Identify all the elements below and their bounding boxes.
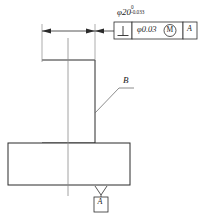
dimension-arrow-outer-right	[95, 29, 104, 34]
dimension-arrow-right	[86, 29, 95, 34]
dimension-arrow-left	[42, 29, 51, 34]
dimension-lower-deviation: -0.033	[131, 10, 144, 15]
datum-label-a: A	[98, 198, 103, 206]
leader-b-group	[95, 88, 134, 113]
datum-triangle-indicator	[95, 186, 107, 195]
dimension-deviations: 0-0.033	[131, 5, 144, 15]
part-outline-base	[8, 143, 130, 185]
dimension-nominal-value: φ20	[117, 7, 131, 17]
part-outline-post	[42, 60, 95, 143]
base-block-profile	[8, 143, 130, 185]
fcf-tolerance-value: φ0.03	[137, 25, 157, 34]
dimension-text: φ200-0.033	[117, 6, 144, 17]
surface-label-b: B	[123, 76, 129, 85]
dimension-line-group	[42, 29, 114, 34]
fcf-datum-letter: A	[187, 25, 192, 33]
post-profile	[42, 60, 95, 143]
leader-line-b	[95, 88, 119, 113]
engineering-drawing: φ200-0.033 φ0.03 M A B A	[0, 0, 198, 217]
fcf-mmc-modifier-letter: M	[167, 26, 174, 34]
